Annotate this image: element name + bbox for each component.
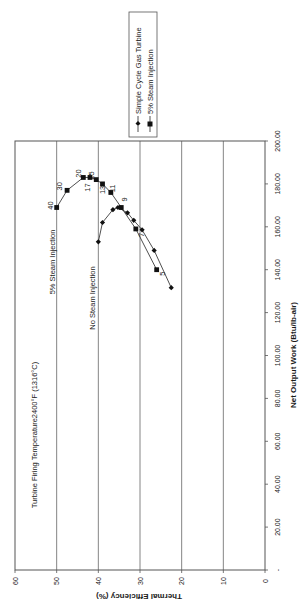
square-marker xyxy=(54,205,59,210)
efficiency-tick-label: 30 xyxy=(137,577,144,585)
point-label: 7 xyxy=(137,233,146,237)
efficiency-tick-label: 10 xyxy=(220,577,227,585)
work-tick-label: 180.00 xyxy=(274,173,281,195)
square-marker xyxy=(65,188,70,193)
efficiency-tick-label: 50 xyxy=(53,577,60,585)
efficiency-tick-label: 20 xyxy=(178,577,185,585)
square-marker xyxy=(133,227,138,232)
efficiency-tick-label: 40 xyxy=(95,577,102,585)
legend-label-steam-injection: 5% Steam Injection xyxy=(146,49,155,114)
chart-annotation: 5% Steam Injection xyxy=(48,230,57,295)
work-tick-label: 160.00 xyxy=(274,216,281,238)
work-tick-label: 200.00 xyxy=(274,130,281,152)
efficiency-axis-ticks: 0102030405060 xyxy=(12,570,269,585)
chart-annotation: No Steam Injection xyxy=(88,266,97,329)
annotations: Turbine Firing Temperature2400°F (1316°C… xyxy=(30,230,97,509)
diamond-marker xyxy=(169,285,174,290)
work-tick-label: 100.00 xyxy=(274,345,281,367)
work-tick-label: 120.00 xyxy=(274,302,281,324)
point-label: 40 xyxy=(46,201,55,209)
square-marker xyxy=(100,182,105,187)
point-label: 30 xyxy=(55,182,64,190)
series-line xyxy=(57,177,157,269)
point-label: 9 xyxy=(120,197,129,201)
efficiency-tick-label: 0 xyxy=(262,579,269,583)
efficiency-tick-label: 60 xyxy=(12,577,19,585)
efficiency-vs-work-chart: 57911131517203040 -20.0040.0060.0080.001… xyxy=(0,0,306,606)
square-marker xyxy=(154,267,159,272)
work-tick-label: 60.00 xyxy=(274,432,281,450)
gridlines xyxy=(57,141,224,570)
chart-annotation: Turbine Firing Temperature2400°F (1316°C… xyxy=(30,361,39,508)
work-tick-label: - xyxy=(274,568,281,571)
work-tick-label: 140.00 xyxy=(274,259,281,281)
square-marker-icon xyxy=(148,122,153,127)
x-axis-title: Net Output Work (Btu/lb-air) xyxy=(289,302,298,408)
square-marker xyxy=(119,205,124,210)
point-label: 11 xyxy=(108,185,117,193)
legend-label-simple-cycle: Simple Cycle Gas Turbine xyxy=(134,27,143,114)
data-series: 57911131517203040 xyxy=(46,169,174,290)
work-axis-ticks: -20.0040.0060.0080.00100.00120.00140.001… xyxy=(265,130,281,571)
legend: Simple Cycle Gas Turbine 5% Steam Inject… xyxy=(129,12,157,137)
y-axis-title: Thermal Efficiency (%) xyxy=(96,592,182,601)
point-label: 5 xyxy=(158,272,167,276)
work-tick-label: 20.00 xyxy=(274,518,281,536)
square-marker xyxy=(88,175,93,180)
work-tick-label: 80.00 xyxy=(274,390,281,408)
diamond-marker xyxy=(152,248,157,253)
point-label: 17 xyxy=(83,183,92,191)
point-label: 13 xyxy=(98,186,107,194)
diamond-marker xyxy=(96,239,101,244)
work-tick-label: 40.00 xyxy=(274,475,281,493)
point-label: 20 xyxy=(74,169,83,177)
